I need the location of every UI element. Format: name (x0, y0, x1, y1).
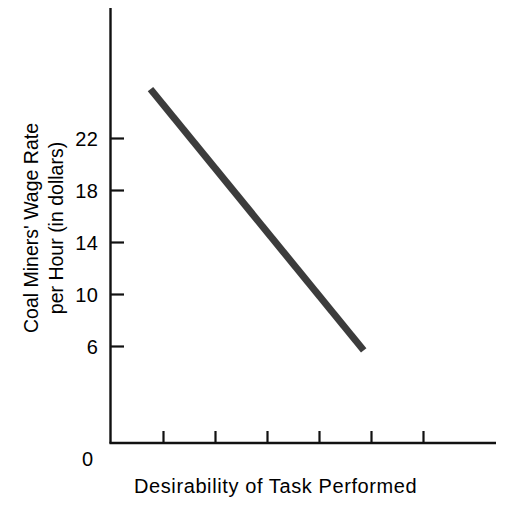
chart-figure: 22 18 14 10 6 0 Coal Miners' Wage Rate p… (0, 0, 516, 509)
chart-plot-area (0, 0, 516, 509)
y-axis-ticks (111, 139, 124, 347)
y-tick-label-22: 22 (66, 129, 98, 149)
x-axis-title: Desirability of Task Performed (134, 474, 417, 498)
y-tick-label-6: 6 (66, 337, 98, 357)
y-tick-label-14: 14 (66, 233, 98, 253)
origin-label: 0 (82, 449, 93, 469)
x-axis-ticks (164, 431, 424, 443)
y-tick-label-10: 10 (66, 285, 98, 305)
y-tick-label-18: 18 (66, 181, 98, 201)
data-line-wage-rate (151, 89, 364, 350)
